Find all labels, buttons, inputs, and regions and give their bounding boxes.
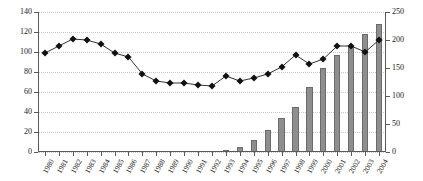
- left-axis-tick: [34, 112, 38, 113]
- right-axis-tick-label: 200: [392, 36, 404, 44]
- left-axis-tick-label: 20: [24, 128, 32, 136]
- x-axis-tick: [73, 152, 74, 156]
- right-axis-tick-label: 250: [392, 8, 404, 16]
- left-axis-tick: [34, 72, 38, 73]
- left-axis-line: [38, 12, 39, 152]
- left-axis-tick: [34, 152, 38, 153]
- x-axis-tick-label: 2001: [334, 158, 348, 175]
- left-axis-tick: [34, 92, 38, 93]
- x-axis-tick-label: 1989: [167, 158, 181, 175]
- left-axis-tick: [34, 132, 38, 133]
- right-axis-tick: [386, 12, 390, 13]
- x-axis-tick-label: 1995: [250, 158, 264, 175]
- x-axis-tick-label: 1999: [306, 158, 320, 175]
- x-axis-tick-label: 1994: [236, 158, 250, 175]
- x-axis-tick: [142, 152, 143, 156]
- plot-area: 020406080100120140 050100150200250 19801…: [38, 12, 386, 152]
- right-axis-tick-label: 150: [392, 64, 404, 72]
- x-axis-tick: [282, 152, 283, 156]
- x-axis-tick: [212, 152, 213, 156]
- dual-axis-chart: 020406080100120140 050100150200250 19801…: [0, 0, 423, 181]
- x-axis-tick: [296, 152, 297, 156]
- x-axis-tick-label: 1980: [41, 158, 55, 175]
- x-axis-tick: [379, 152, 380, 156]
- right-axis-tick: [386, 124, 390, 125]
- x-axis-tick: [156, 152, 157, 156]
- x-axis-tick: [309, 152, 310, 156]
- right-axis-tick-label: 0: [392, 148, 396, 156]
- x-axis-tick-label: 2000: [320, 158, 334, 175]
- left-axis-tick-label: 60: [24, 88, 32, 96]
- left-axis-tick: [34, 52, 38, 53]
- x-axis-tick: [128, 152, 129, 156]
- x-axis-tick: [365, 152, 366, 156]
- right-axis-line: [385, 12, 386, 152]
- line-path: [45, 39, 379, 86]
- x-axis-tick: [323, 152, 324, 156]
- x-axis-tick-label: 2003: [362, 158, 376, 175]
- x-axis-tick-label: 1981: [55, 158, 69, 175]
- right-axis-tick-label: 100: [392, 92, 404, 100]
- left-axis-tick: [34, 12, 38, 13]
- x-axis-tick-label: 1991: [195, 158, 209, 175]
- right-axis-tick: [386, 152, 390, 153]
- x-axis-tick-label: 1992: [209, 158, 223, 175]
- x-axis-tick-label: 1996: [264, 158, 278, 175]
- x-axis-tick: [198, 152, 199, 156]
- x-axis-tick: [240, 152, 241, 156]
- x-axis-tick: [115, 152, 116, 156]
- x-axis-tick: [87, 152, 88, 156]
- left-axis-tick-label: 140: [20, 8, 32, 16]
- x-axis-tick-label: 1982: [69, 158, 83, 175]
- x-axis-tick: [226, 152, 227, 156]
- left-axis-tick-label: 40: [24, 108, 32, 116]
- x-axis-tick-label: 1990: [181, 158, 195, 175]
- x-axis-tick-label: 1986: [125, 158, 139, 175]
- x-axis-tick-label: 2004: [376, 158, 390, 175]
- x-axis-tick: [45, 152, 46, 156]
- left-axis-tick-label: 80: [24, 68, 32, 76]
- x-axis-tick-label: 1983: [83, 158, 97, 175]
- x-axis-tick-label: 1993: [222, 158, 236, 175]
- left-axis-tick-label: 100: [20, 48, 32, 56]
- x-axis-tick: [101, 152, 102, 156]
- x-axis-tick-label: 1988: [153, 158, 167, 175]
- right-axis-tick: [386, 68, 390, 69]
- x-axis-tick-label: 1984: [97, 158, 111, 175]
- left-axis-tick-label: 0: [28, 148, 32, 156]
- x-axis-tick-label: 1987: [139, 158, 153, 175]
- x-axis-tick: [170, 152, 171, 156]
- x-axis-tick-label: 1997: [278, 158, 292, 175]
- x-axis-tick: [268, 152, 269, 156]
- left-axis-tick: [34, 32, 38, 33]
- x-axis-tick: [184, 152, 185, 156]
- x-axis-tick: [337, 152, 338, 156]
- left-axis-tick-label: 120: [20, 28, 32, 36]
- x-axis-tick-label: 2002: [348, 158, 362, 175]
- x-axis-tick: [254, 152, 255, 156]
- x-axis-tick: [59, 152, 60, 156]
- right-axis-tick: [386, 40, 390, 41]
- right-axis-tick-label: 50: [392, 120, 400, 128]
- x-axis-tick-label: 1998: [292, 158, 306, 175]
- x-axis-tick-label: 1985: [111, 158, 125, 175]
- right-axis-tick: [386, 96, 390, 97]
- x-axis-tick: [351, 152, 352, 156]
